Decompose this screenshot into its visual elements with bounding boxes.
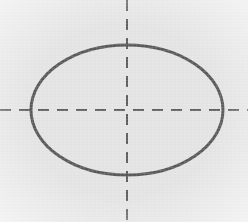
ellipse-diagram-svg [0,0,248,222]
figure-canvas [0,0,248,222]
